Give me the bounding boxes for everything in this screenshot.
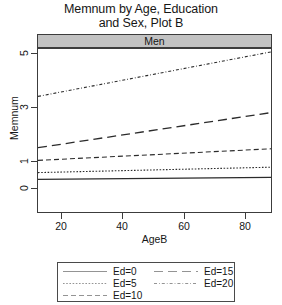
legend-column-right: Ed=15 Ed=20 <box>154 266 236 290</box>
strip-panel: Men <box>37 34 272 48</box>
strip-panel-label: Men <box>38 35 271 48</box>
legend: Ed=0 Ed=5 Ed=10 Ed=15 <box>57 262 235 302</box>
legend-label-ed20: Ed=20 <box>204 278 233 289</box>
legend-key-ed10-icon <box>63 295 107 296</box>
x-tick-mark-80 <box>245 213 246 219</box>
x-tick-label-40: 40 <box>109 220 135 232</box>
legend-key-ed5-icon <box>63 283 107 284</box>
legend-key-ed15-icon <box>154 271 198 272</box>
x-tick-mark-20 <box>61 213 62 219</box>
title-line-1: Memnum by Age, Education <box>0 2 282 16</box>
x-axis-title: AgeB <box>37 233 272 245</box>
series-line-ed10 <box>38 149 271 161</box>
page-title: Memnum by Age, Education and Sex, Plot B <box>0 2 282 30</box>
series-line-ed20 <box>38 52 271 97</box>
series-line-ed0 <box>38 177 271 179</box>
y-tick-label-5: 5 <box>18 46 30 60</box>
y-tick-label-3: 3 <box>18 100 30 114</box>
x-tick-mark-40 <box>122 213 123 219</box>
x-tick-mark-60 <box>184 213 185 219</box>
legend-item-ed20: Ed=20 <box>154 278 236 289</box>
x-tick-label-20: 20 <box>48 220 74 232</box>
title-line-2: and Sex, Plot B <box>0 16 282 30</box>
legend-item-ed10: Ed=10 <box>63 290 153 301</box>
y-axis-title: Memnum <box>8 83 20 153</box>
legend-key-ed20-icon <box>154 283 198 284</box>
legend-key-ed0-icon <box>63 271 107 272</box>
plot-area <box>37 48 272 213</box>
y-tick-label-0: 0 <box>18 181 30 195</box>
y-tick-label-1: 1 <box>18 154 30 168</box>
series-line-ed15 <box>38 113 271 148</box>
legend-label-ed10: Ed=10 <box>113 290 142 301</box>
legend-label-ed0: Ed=0 <box>113 266 137 277</box>
legend-label-ed15: Ed=15 <box>204 266 233 277</box>
legend-column-left: Ed=0 Ed=5 Ed=10 <box>63 266 153 302</box>
legend-label-ed5: Ed=5 <box>113 278 137 289</box>
legend-item-ed15: Ed=15 <box>154 266 236 277</box>
x-tick-label-80: 80 <box>232 220 258 232</box>
legend-item-ed0: Ed=0 <box>63 266 153 277</box>
x-tick-label-60: 60 <box>171 220 197 232</box>
plot-lines-svg <box>38 49 271 212</box>
legend-item-ed5: Ed=5 <box>63 278 153 289</box>
series-line-ed5 <box>38 167 271 172</box>
chart-figure: Memnum by Age, Education and Sex, Plot B… <box>0 0 282 305</box>
